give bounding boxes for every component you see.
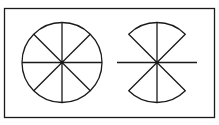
center-point [60,61,64,65]
left-figure-divided-circle [22,23,102,103]
center-point [155,61,159,65]
right-figure-opposite-sectors [117,23,197,103]
diagram-canvas [0,0,219,125]
